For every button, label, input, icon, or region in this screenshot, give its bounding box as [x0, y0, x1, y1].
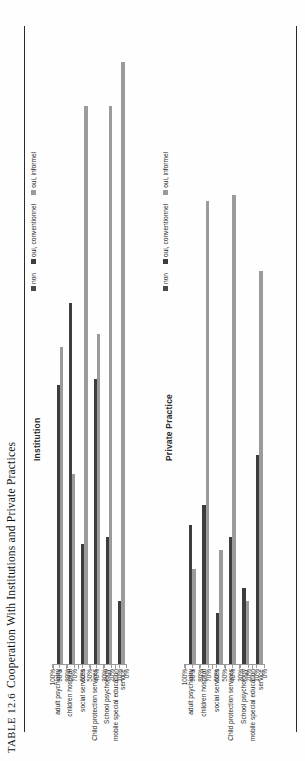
chart-panel-institution: Institution non oui, conventionnel oui, …	[26, 0, 156, 761]
legend-label-oui-informel: oui, informel	[162, 152, 169, 188]
axis-tick	[67, 664, 68, 668]
bar-oui-informel	[192, 569, 195, 664]
bar-oui-informel	[97, 334, 100, 664]
axis-tick	[96, 664, 97, 668]
category-label: adult psychiatry	[187, 669, 195, 715]
axis-tick	[74, 664, 75, 668]
chart-title-private-practice: Private Practice	[164, 394, 174, 461]
axis-tick	[82, 664, 83, 668]
chart-panel-private-practice: Private Practice non oui, conventionnel …	[158, 0, 294, 761]
bar-group: Child protection services	[90, 30, 100, 664]
bar-group: children hospital	[66, 30, 76, 664]
category-label: adult psychiatry	[54, 669, 62, 715]
axis-tick	[248, 664, 249, 668]
legend-item-oui-informel: oui, informel	[162, 152, 169, 195]
category-tick	[66, 665, 67, 669]
legend-swatch-oui-informel	[163, 190, 168, 195]
category-tick	[199, 665, 200, 669]
category-tick	[239, 665, 240, 669]
figure-page: TABLE 12.6 Cooperation With Institutions…	[0, 0, 305, 761]
bar-chart-private-practice: Private Practice non oui, conventionnel …	[158, 0, 294, 761]
legend-swatch-oui-informel	[31, 190, 36, 195]
category-label: mobile special education service	[112, 669, 127, 747]
axis-tick	[216, 664, 217, 668]
category-tick	[185, 665, 186, 669]
bar-group: adult psychiatry	[53, 30, 63, 664]
axis-tick	[200, 664, 201, 668]
bar-oui-informel	[72, 474, 75, 664]
chart-title-institution: Institution	[32, 418, 42, 461]
bar-group: adult psychiatry	[185, 30, 195, 664]
legend-label-non: non	[162, 273, 169, 284]
table-rule-top	[24, 26, 25, 732]
legend-private-practice: non oui, conventionnel oui, informel	[162, 152, 169, 291]
category-label: Child protection services	[227, 669, 235, 747]
legend-swatch-non	[31, 287, 36, 292]
bar-oui-informel	[109, 106, 112, 664]
category-label: School psychology	[240, 669, 248, 724]
category-tick	[78, 665, 79, 669]
axis-tick	[256, 664, 257, 668]
bar-group: School psychology	[239, 30, 249, 664]
legend-swatch-oui-conventionnel	[31, 259, 36, 264]
bar-oui-informel	[232, 195, 235, 664]
bar-oui-informel	[259, 271, 262, 664]
category-tick	[53, 665, 54, 669]
plot-area-institution: 0%10%20%30%40%50%60%70%80%90%100% adult …	[52, 30, 126, 665]
axis-tick	[192, 664, 193, 668]
table-rule-bottom	[296, 26, 297, 732]
category-label: children hospital	[67, 669, 75, 717]
bar-group: children hospital	[199, 30, 209, 664]
axis-tick	[111, 664, 112, 668]
legend-item-oui-informel: oui, informel	[30, 152, 37, 195]
category-tick	[115, 665, 116, 669]
category-tick	[90, 665, 91, 669]
category-tick	[103, 665, 104, 669]
legend-item-oui-conventionnel: oui, conventionnel	[162, 204, 169, 264]
bar-oui-informel	[84, 106, 87, 664]
legend-swatch-oui-conventionnel	[163, 259, 168, 264]
table-caption: TABLE 12.6 Cooperation With Institutions…	[0, 0, 22, 761]
legend-label-non: non	[30, 273, 37, 284]
category-label: School psychology	[104, 669, 112, 724]
axis-tick	[104, 664, 105, 668]
legend-item-non: non	[162, 273, 169, 291]
bar-oui-informel	[206, 201, 209, 664]
category-label: social services	[79, 669, 87, 712]
bar-group: School psychology	[103, 30, 113, 664]
bar-group: social services	[212, 30, 222, 664]
legend-item-non: non	[30, 273, 37, 291]
bar-groups-institution: adult psychiatrychildren hospitalsocial …	[52, 30, 126, 664]
legend-label-oui-conventionnel: oui, conventionnel	[30, 204, 37, 257]
legend-swatch-non	[163, 287, 168, 292]
table-number: TABLE 12.6	[6, 693, 17, 753]
bar-group: mobile special education service	[252, 30, 262, 664]
plot-area-private-practice: 0%10%20%30%40%50%60%70%80%90%100% adult …	[184, 30, 264, 665]
table-caption-text: Cooperation With Institutions and Privat…	[5, 442, 17, 688]
axis-tick	[240, 664, 241, 668]
axis-tick	[264, 664, 265, 668]
legend-label-oui-conventionnel: oui, conventionnel	[162, 204, 169, 257]
legend-label-oui-informel: oui, informel	[30, 152, 37, 188]
legend-item-oui-conventionnel: oui, conventionnel	[30, 204, 37, 264]
bar-chart-institution: Institution non oui, conventionnel oui, …	[26, 0, 156, 761]
bar-oui-informel	[219, 550, 222, 664]
axis-tick	[208, 664, 209, 668]
category-tick	[212, 665, 213, 669]
bar-oui-informel	[121, 62, 124, 664]
category-label: children hospital	[200, 669, 208, 717]
category-label: social services	[214, 669, 222, 712]
bar-oui-informel	[246, 601, 249, 664]
bar-oui-informel	[60, 347, 63, 664]
bar-group: mobile special education service	[115, 30, 125, 664]
legend-institution: non oui, conventionnel oui, informel	[30, 152, 37, 291]
axis-tick	[126, 664, 127, 668]
category-tick	[225, 665, 226, 669]
bar-group: Child protection services	[225, 30, 235, 664]
category-label: mobile special education service	[250, 669, 265, 747]
category-label: Child protection services	[91, 669, 99, 747]
axis-tick	[119, 664, 120, 668]
table-caption-strip: TABLE 12.6 Cooperation With Institutions…	[0, 0, 22, 761]
bar-group: social services	[78, 30, 88, 664]
axis-tick	[232, 664, 233, 668]
